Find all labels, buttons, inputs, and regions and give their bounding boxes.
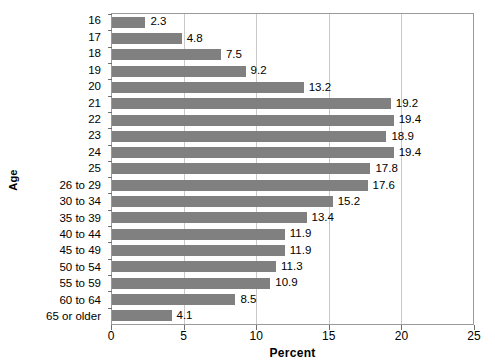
bar — [112, 278, 270, 289]
x-axis-title: Percent — [111, 346, 474, 360]
bar-value-label: 15.2 — [338, 196, 360, 208]
bar — [112, 163, 370, 174]
bar-row: 11.9 — [112, 242, 473, 258]
bar-rows: 2.34.87.59.213.219.219.418.919.417.817.6… — [112, 14, 473, 324]
bar — [112, 98, 391, 109]
y-axis-tick-mark — [108, 275, 112, 276]
bar-value-label: 9.2 — [251, 65, 267, 77]
bar — [112, 180, 368, 191]
bar — [112, 245, 285, 256]
x-axis-tick-label: 10 — [250, 330, 263, 342]
y-axis-tick-mark — [108, 308, 112, 309]
y-axis-tick-mark — [108, 193, 112, 194]
y-axis-tick-mark — [108, 242, 112, 243]
bar-row: 10.9 — [112, 275, 473, 291]
bar — [112, 17, 145, 28]
bar-row: 9.2 — [112, 63, 473, 79]
y-axis-tick-mark — [108, 210, 112, 211]
y-axis-tick-label: 18 — [14, 46, 106, 62]
y-axis-tick-label: 22 — [14, 112, 106, 128]
y-axis-tick-label: 19 — [14, 62, 106, 78]
y-axis-tick-label: 26 to 29 — [14, 177, 106, 193]
bar — [112, 66, 246, 77]
bar-row: 13.2 — [112, 79, 473, 95]
bar — [112, 49, 221, 60]
bar-row: 18.9 — [112, 128, 473, 144]
bar-chart: Age 1617181920212223242526 to 2930 to 34… — [0, 0, 495, 363]
bar-value-label: 18.9 — [391, 131, 413, 143]
bar-row: 11.9 — [112, 226, 473, 242]
y-axis-tick-label: 55 to 59 — [14, 276, 106, 292]
bar — [112, 131, 386, 142]
bar — [112, 212, 307, 223]
bar-value-label: 19.4 — [399, 114, 421, 126]
y-axis-tick-mark — [108, 112, 112, 113]
y-axis-tick-mark — [108, 161, 112, 162]
bar-value-label: 13.4 — [312, 212, 334, 224]
bar — [112, 229, 285, 240]
bar-row: 4.1 — [112, 308, 473, 324]
y-axis-tick-label: 17 — [14, 29, 106, 45]
bar-value-label: 10.9 — [275, 277, 297, 289]
bar — [112, 196, 333, 207]
bar — [112, 261, 276, 272]
bar-row: 4.8 — [112, 30, 473, 46]
bar-value-label: 2.3 — [150, 16, 166, 28]
y-axis-tick-label: 16 — [14, 13, 106, 29]
y-axis-tick-label: 45 to 49 — [14, 243, 106, 259]
bar-row: 17.8 — [112, 161, 473, 177]
bar-row: 19.4 — [112, 112, 473, 128]
x-axis-tick-label: 0 — [108, 330, 115, 342]
y-axis-tick-label: 21 — [14, 95, 106, 111]
bar — [112, 33, 182, 44]
x-axis-tick-label: 20 — [395, 330, 408, 342]
bar-value-label: 8.5 — [240, 294, 256, 306]
bar-row: 17.6 — [112, 177, 473, 193]
y-axis-tick-mark — [108, 291, 112, 292]
y-axis-tick-label: 24 — [14, 144, 106, 160]
bar-value-label: 17.6 — [373, 180, 395, 192]
bar-value-label: 11.3 — [281, 261, 303, 273]
bar-row: 19.2 — [112, 96, 473, 112]
y-axis-tick-mark — [108, 47, 112, 48]
bar-value-label: 4.1 — [177, 310, 193, 322]
y-axis-tick-mark — [108, 63, 112, 64]
y-axis-tick-mark — [108, 30, 112, 31]
y-axis-tick-label: 23 — [14, 128, 106, 144]
bar-row: 2.3 — [112, 14, 473, 30]
bar — [112, 115, 394, 126]
y-axis-tick-mark — [108, 96, 112, 97]
bar-row: 19.4 — [112, 145, 473, 161]
bar — [112, 310, 172, 321]
plot-area: 2.34.87.59.213.219.219.418.919.417.817.6… — [111, 13, 474, 325]
y-axis-tick-mark — [108, 145, 112, 146]
x-axis-tick-label: 5 — [180, 330, 187, 342]
y-axis-tick-label: 20 — [14, 79, 106, 95]
bar — [112, 82, 304, 93]
x-axis-tick-label: 25 — [467, 330, 480, 342]
bar-value-label: 4.8 — [187, 33, 203, 45]
bar-row: 7.5 — [112, 47, 473, 63]
y-axis-tick-label: 50 to 54 — [14, 259, 106, 275]
y-axis-tick-label: 30 to 34 — [14, 194, 106, 210]
y-axis-tick-mark — [108, 128, 112, 129]
bar-row: 15.2 — [112, 193, 473, 209]
y-axis-tick-mark — [108, 14, 112, 15]
y-axis-tick-label: 65 or older — [14, 309, 106, 325]
bar — [112, 294, 235, 305]
x-axis-tick-label: 15 — [322, 330, 335, 342]
y-axis-tick-label: 40 to 44 — [14, 226, 106, 242]
y-axis-tick-mark — [108, 79, 112, 80]
bar — [112, 147, 394, 158]
bar-value-label: 19.4 — [399, 147, 421, 159]
bar-value-label: 17.8 — [375, 163, 397, 175]
bar-value-label: 7.5 — [226, 49, 242, 61]
y-axis-tick-labels: 1617181920212223242526 to 2930 to 3435 t… — [14, 13, 106, 325]
bar-row: 13.4 — [112, 210, 473, 226]
y-axis-tick-mark — [108, 226, 112, 227]
y-axis-tick-label: 25 — [14, 161, 106, 177]
y-axis-tick-mark — [108, 259, 112, 260]
bar-value-label: 11.9 — [290, 228, 312, 240]
bar-row: 11.3 — [112, 259, 473, 275]
bar-value-label: 19.2 — [396, 98, 418, 110]
